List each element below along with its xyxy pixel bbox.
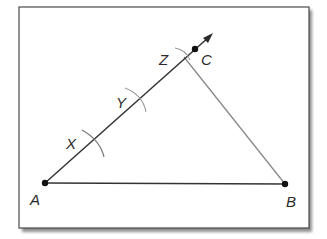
point-C [192,46,198,52]
diagram-frame [19,7,309,228]
point-B [282,181,288,187]
segment-AB [45,183,285,184]
label-C: C [201,51,212,68]
label-B: B [286,193,296,210]
geometry-diagram: A B C X Y Z [0,0,327,239]
point-A [42,180,48,186]
label-A: A [29,191,40,208]
label-Z: Z [158,51,169,68]
label-X: X [65,135,77,152]
label-Y: Y [116,94,127,111]
